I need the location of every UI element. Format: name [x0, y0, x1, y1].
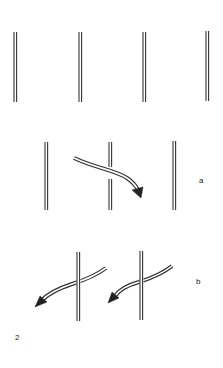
- arrowhead-icon: [132, 187, 143, 198]
- rod: [79, 32, 82, 102]
- top-row-rods: [14, 31, 209, 102]
- rod: [109, 142, 112, 210]
- rod: [77, 252, 81, 321]
- rod: [14, 32, 17, 102]
- rod: [140, 251, 144, 321]
- panel-b-label: b: [196, 277, 200, 286]
- rod: [45, 142, 48, 210]
- diagram-canvas: [0, 0, 223, 368]
- panel-b: [35, 251, 172, 321]
- rod: [173, 141, 176, 210]
- panel-a-label: a: [199, 176, 203, 185]
- panel-a: [45, 141, 176, 210]
- rod: [143, 32, 146, 102]
- curved-arrow-under-rod-1: [35, 268, 106, 307]
- rod: [206, 31, 209, 101]
- figure-number-label: 2: [15, 333, 19, 342]
